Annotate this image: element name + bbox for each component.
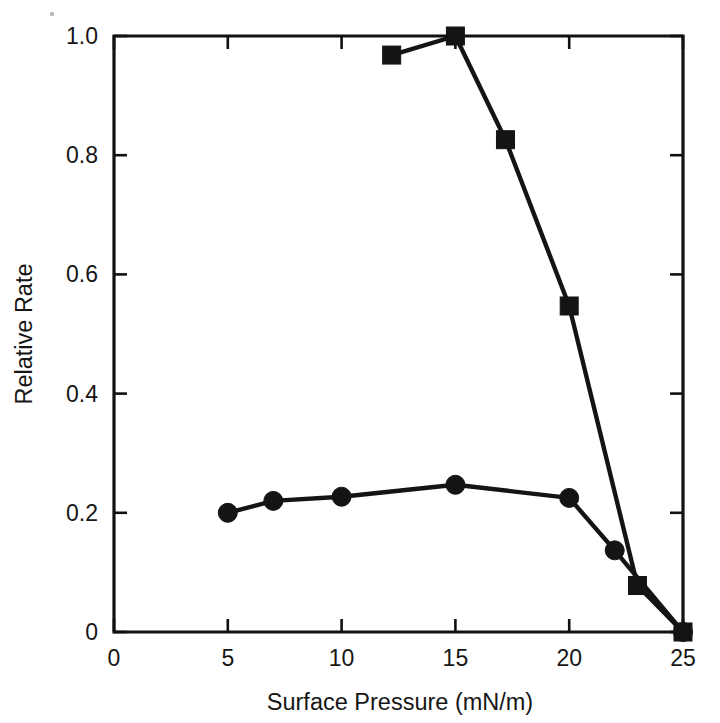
- scan-speck: [50, 12, 54, 16]
- y-tick-label: 0.8: [66, 142, 98, 168]
- y-axis-tick-labels: 00.20.40.60.81.0: [66, 23, 98, 645]
- y-tick-label: 1.0: [66, 23, 98, 49]
- series-circles: [218, 475, 692, 641]
- x-tick-label: 10: [329, 645, 355, 671]
- data-point-circle: [605, 541, 624, 560]
- data-point-square: [496, 131, 514, 149]
- x-tick-label: 5: [221, 645, 234, 671]
- chart-svg: 0510152025 00.20.40.60.81.0 Surface Pres…: [0, 0, 720, 723]
- data-point-circle: [218, 503, 237, 522]
- y-tick-label: 0: [85, 619, 98, 645]
- y-axis-title: Relative Rate: [11, 263, 37, 404]
- data-point-square: [383, 46, 401, 64]
- y-axis-ticks: [114, 36, 683, 632]
- data-point-circle: [446, 475, 465, 494]
- series-squares: [383, 27, 692, 641]
- axis-frame: [114, 36, 683, 632]
- data-point-square: [560, 297, 578, 315]
- data-point-circle: [560, 488, 579, 507]
- x-tick-label: 25: [670, 645, 696, 671]
- x-axis-title: Surface Pressure (mN/m): [267, 689, 533, 715]
- data-point-circle: [264, 491, 283, 510]
- x-tick-label: 0: [108, 645, 121, 671]
- x-tick-label: 15: [443, 645, 469, 671]
- y-tick-label: 0.6: [66, 261, 98, 287]
- x-tick-label: 20: [556, 645, 582, 671]
- y-tick-label: 0.2: [66, 500, 98, 526]
- x-axis-ticks: [114, 36, 683, 632]
- y-tick-label: 0.4: [66, 381, 98, 407]
- data-point-circle: [332, 487, 351, 506]
- series-line-squares: [392, 36, 683, 632]
- data-point-square: [446, 27, 464, 45]
- x-axis-tick-labels: 0510152025: [108, 645, 696, 671]
- data-point-circle: [674, 623, 693, 642]
- chart-figure: 0510152025 00.20.40.60.81.0 Surface Pres…: [0, 0, 720, 723]
